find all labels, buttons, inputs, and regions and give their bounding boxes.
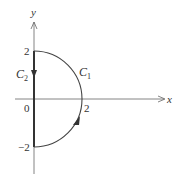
y-tick-bottom-label: −2 (18, 141, 30, 153)
origin-label: 0 (24, 102, 30, 114)
c2-direction-arrow-icon (31, 70, 37, 78)
x-axis-label: x (166, 93, 172, 105)
svg-text:2: 2 (24, 74, 28, 83)
c2-label: C 2 (16, 67, 28, 83)
x-tick-right-label: 2 (84, 102, 90, 114)
x-axis (15, 96, 165, 102)
contour-diagram: y x 0 2 −2 2 C 1 C 2 (0, 0, 188, 185)
y-axis-label: y (30, 6, 36, 18)
y-tick-top-label: 2 (24, 45, 30, 57)
svg-text:1: 1 (87, 72, 91, 81)
c1-label: C 1 (79, 65, 91, 81)
